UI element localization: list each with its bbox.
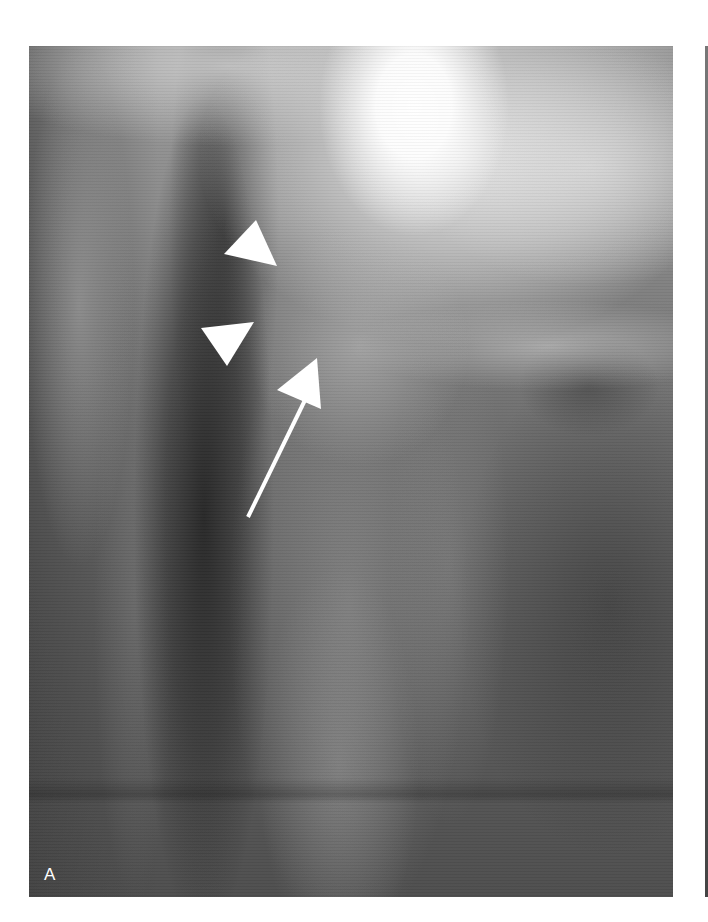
radiograph-panel: A — [29, 46, 673, 897]
arrow-shaft — [248, 396, 307, 517]
long-arrow-icon — [248, 358, 321, 517]
arrow-head — [277, 358, 321, 409]
upper-arrowhead-icon — [224, 220, 277, 266]
panel-label: A — [44, 866, 55, 883]
annotation-overlay — [29, 46, 673, 897]
lower-arrowhead-icon — [201, 322, 254, 366]
